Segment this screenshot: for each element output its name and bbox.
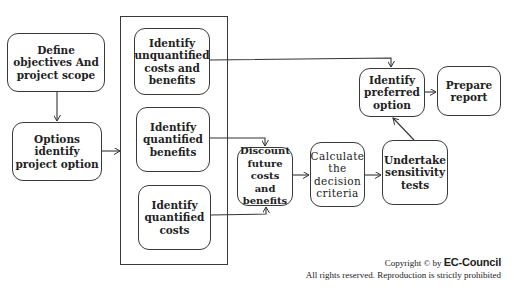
node-label: Identify quantified costs bbox=[141, 199, 208, 237]
node-discount-future: Discount future costs and benefits bbox=[237, 147, 293, 206]
node-identify-preferred: Identify preferred option bbox=[359, 68, 425, 117]
node-label: Identify quantified benefits bbox=[139, 121, 207, 159]
node-label: Define objectives And project scope bbox=[10, 44, 102, 82]
node-identify-quantified-benefits: Identify quantified benefits bbox=[136, 107, 210, 172]
node-define-objectives: Define objectives And project scope bbox=[7, 33, 105, 92]
node-calculate-decision: Calculate the decision criteria bbox=[310, 142, 365, 207]
node-label: Prepare report bbox=[440, 79, 498, 104]
node-label: Discount future costs and benefits bbox=[240, 145, 290, 208]
copyright-prefix: Copyright © by bbox=[385, 258, 444, 268]
node-prepare-report: Prepare report bbox=[437, 66, 501, 116]
brand-name: EC-Council bbox=[444, 256, 501, 268]
node-label: Options identify project option bbox=[15, 133, 99, 171]
node-identify-unquantified: Identify unquantified costs and benefits bbox=[134, 28, 210, 95]
node-options-identify: Options identify project option bbox=[12, 122, 102, 181]
copyright-line: Copyright © by EC-Council bbox=[306, 256, 501, 269]
node-undertake-sensitivity: Undertake sensitivity tests bbox=[382, 140, 448, 205]
node-identify-quantified-costs: Identify quantified costs bbox=[138, 185, 211, 250]
node-label: Identify unquantified costs and benefits bbox=[134, 37, 209, 87]
node-label: Calculate the decision criteria bbox=[311, 150, 365, 200]
node-label: Undertake sensitivity tests bbox=[384, 154, 446, 192]
arrow-unquantified-to-preferred bbox=[210, 58, 391, 67]
rights-text: All rights reserved. Reproduction is str… bbox=[306, 269, 501, 281]
node-label: Identify preferred option bbox=[362, 74, 422, 112]
arrow-sensitivity-to-preferred bbox=[393, 118, 414, 140]
copyright-notice: Copyright © by EC-Council All rights res… bbox=[306, 256, 501, 281]
